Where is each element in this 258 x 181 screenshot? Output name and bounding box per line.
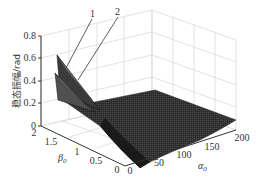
surface-plot: 1 2 0.8 0.6 0.4 0.2 0 稳态振幅/rad 2 1.5 1 0…	[0, 0, 258, 181]
curve1-label: 1	[90, 8, 95, 19]
svg-text:2: 2	[32, 127, 37, 138]
svg-text:1: 1	[75, 146, 80, 157]
svg-text:0.5: 0.5	[90, 155, 103, 166]
curve1-leader	[66, 19, 92, 68]
svg-text:0: 0	[115, 164, 120, 175]
svg-text:50: 50	[154, 157, 164, 168]
svg-text:0.8: 0.8	[24, 30, 37, 41]
svg-text:0.4: 0.4	[24, 75, 37, 86]
svg-text:100: 100	[177, 149, 192, 160]
curve2-label: 2	[115, 6, 120, 17]
alpha-axis-label: α0	[198, 160, 207, 173]
svg-text:1.5: 1.5	[45, 136, 58, 147]
svg-text:0.6: 0.6	[24, 52, 37, 63]
z-axis-label: 稳态振幅/rad	[11, 54, 22, 108]
svg-text:150: 150	[205, 141, 220, 152]
svg-text:200: 200	[235, 132, 250, 143]
beta-axis-label: β0	[57, 152, 67, 165]
svg-text:0.2: 0.2	[24, 97, 37, 108]
beta-ticks: 2 1.5 1 0.5 0	[32, 127, 120, 175]
curve2-leader	[78, 17, 118, 80]
z-ticks: 0.8 0.6 0.4 0.2 0	[24, 30, 37, 131]
svg-text:0: 0	[128, 165, 133, 176]
